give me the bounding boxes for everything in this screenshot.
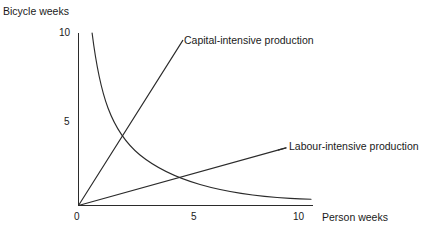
x-tick-label-10: 10 xyxy=(293,212,304,222)
y-axis-title: Bicycle weeks xyxy=(3,6,69,17)
capital-intensive-label: Capital-intensive production xyxy=(184,35,314,46)
y-tick-label-10: 10 xyxy=(59,28,70,38)
isoquant-curve xyxy=(92,33,311,199)
labour-intensive-label: Labour-intensive production xyxy=(289,141,419,152)
x-axis-title: Person weeks xyxy=(322,212,388,223)
y-tick-label-5: 5 xyxy=(64,117,70,127)
chart-figure: Bicycle weeks Person weeks 10 5 0 5 10 C… xyxy=(0,0,430,244)
x-tick-label-5: 5 xyxy=(191,212,197,222)
labour-label-leader xyxy=(278,148,287,150)
x-tick-label-0: 0 xyxy=(74,212,80,222)
